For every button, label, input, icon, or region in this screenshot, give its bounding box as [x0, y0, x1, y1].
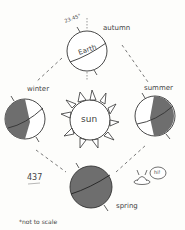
alien-speech: hi!: [154, 169, 161, 175]
earth-summer: [135, 93, 175, 139]
season-label-summer: summer: [144, 84, 173, 92]
alien-ufo: [134, 167, 166, 185]
earth-spring: [70, 163, 112, 211]
page-number-underline: [28, 183, 40, 184]
page-number: 437: [27, 173, 42, 182]
season-label-spring: spring: [116, 202, 138, 210]
season-label-winter: winter: [27, 85, 49, 93]
season-label-autumn: autumn: [103, 24, 130, 32]
earth-winter: [5, 96, 45, 142]
footnote: *not to scale: [19, 218, 57, 225]
sun-label: sun: [81, 114, 97, 124]
